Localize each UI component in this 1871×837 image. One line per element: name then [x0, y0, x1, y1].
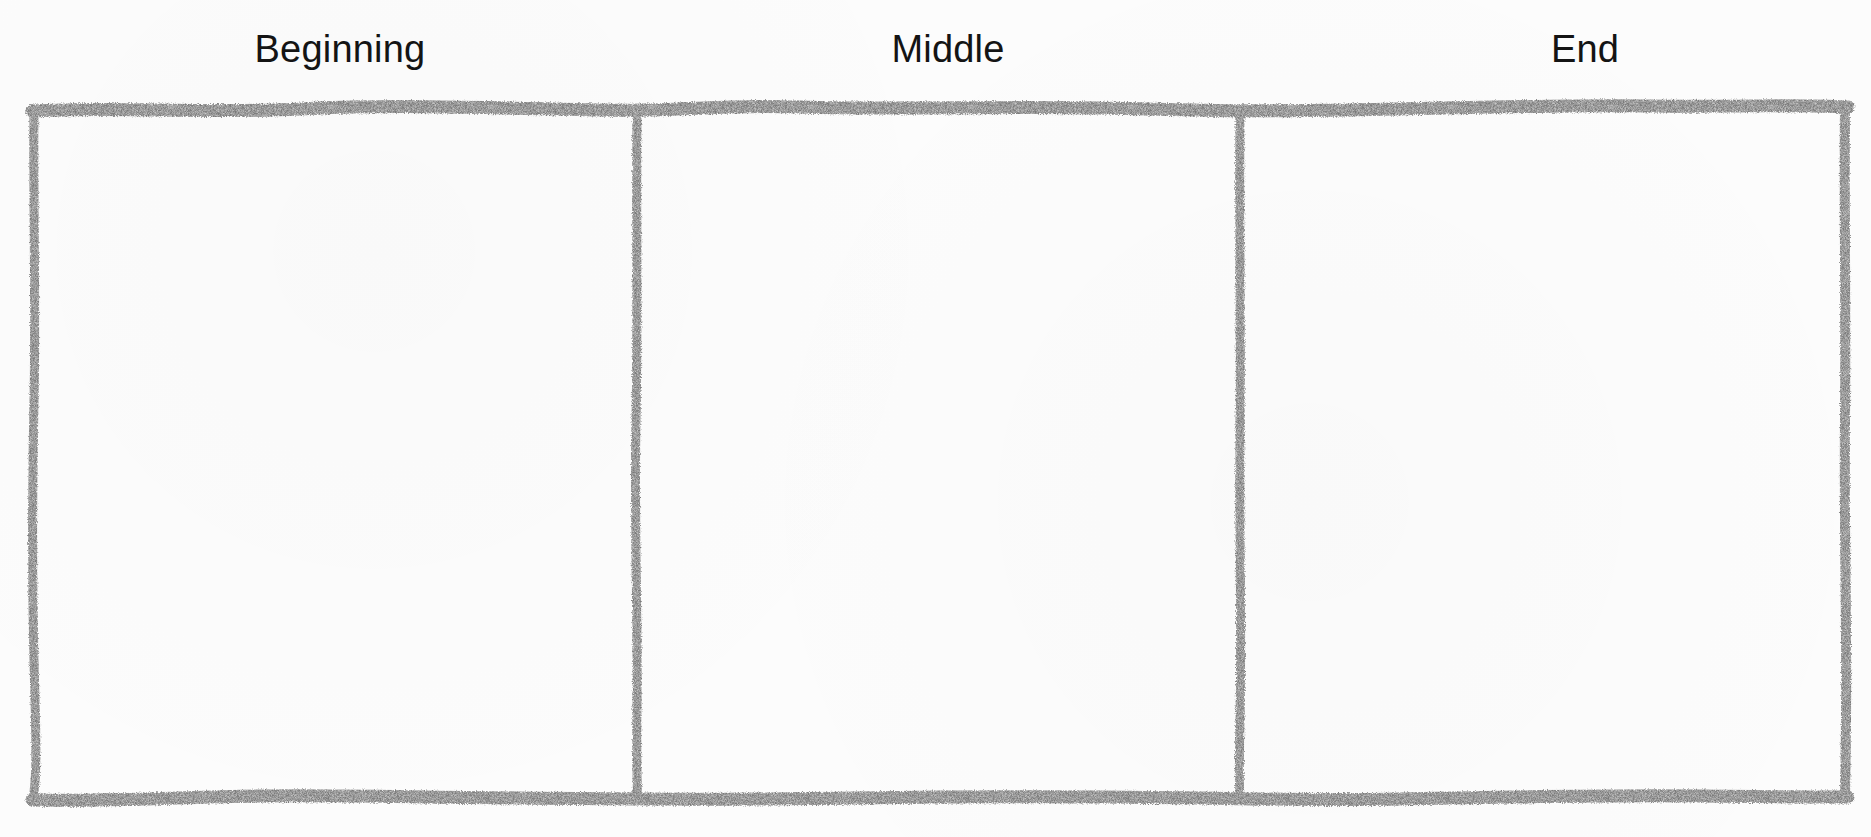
panel-divider-2 [1239, 110, 1240, 800]
panel-middle[interactable] [645, 118, 1233, 794]
panel-divider-1 [635, 110, 637, 800]
panel-beginning[interactable] [42, 118, 630, 794]
frame-left-edge [33, 110, 36, 800]
frame-bottom-edge [32, 796, 1848, 801]
frame-top-edge [32, 106, 1848, 111]
frame-right-edge [1845, 107, 1846, 798]
panel-end[interactable] [1248, 118, 1838, 794]
